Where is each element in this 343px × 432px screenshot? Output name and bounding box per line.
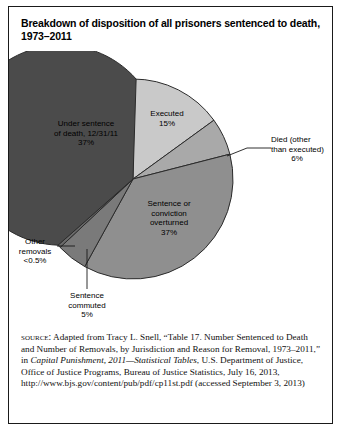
pie-label-died-other-than-executed: Died (other than executed) 6% bbox=[271, 135, 333, 164]
leader-line-died-other-than-executed bbox=[227, 148, 271, 156]
pie-label-sentence-or-conviction-overturned: Sentence or conviction overturned 37% bbox=[122, 199, 216, 237]
page-title: Breakdown of disposition of all prisoner… bbox=[21, 17, 321, 43]
source-italic-1: Capital Punishment, 2011—Statistical Tab… bbox=[30, 355, 196, 365]
pie-label-overturned-value: 37% bbox=[122, 228, 216, 238]
pie-label-died-value: 6% bbox=[271, 154, 323, 164]
pie-label-under-sentence-of-death-name1: Under sentence bbox=[31, 119, 141, 129]
pie-label-other-removals-value: <0.5% bbox=[11, 256, 59, 266]
pie-label-under-sentence-of-death-value: 37% bbox=[31, 138, 141, 148]
pie-chart: Executed 15% Under sentence of death, 12… bbox=[9, 51, 331, 326]
pie-label-died-name1: Died (other bbox=[271, 135, 333, 145]
pie-label-under-sentence-of-death-name2: of death, 12/31/11 bbox=[31, 129, 141, 139]
pie-label-other-removals-name2: removals bbox=[11, 247, 59, 257]
source-kicker: source: bbox=[21, 331, 51, 342]
pie-label-under-sentence-of-death: Under sentence of death, 12/31/11 37% bbox=[31, 119, 141, 148]
pie-label-overturned-name1: Sentence or bbox=[122, 199, 216, 209]
pie-chart-svg bbox=[9, 51, 331, 326]
pie-label-commuted-value: 5% bbox=[51, 310, 123, 320]
pie-label-commuted-name2: commuted bbox=[51, 301, 123, 311]
pie-label-died-name2: than executed) bbox=[271, 145, 333, 155]
pie-label-executed-name: Executed bbox=[127, 109, 207, 119]
source-note: source: Adapted from Tracy L. Snell, “Ta… bbox=[21, 331, 321, 390]
pie-label-other-removals: Other removals <0.5% bbox=[11, 237, 59, 266]
pie-label-other-removals-name1: Other bbox=[11, 237, 59, 247]
figure-panel: Breakdown of disposition of all prisoner… bbox=[8, 6, 333, 424]
pie-label-sentence-commuted: Sentence commuted 5% bbox=[51, 291, 123, 320]
pie-label-overturned-name2: conviction bbox=[122, 209, 216, 219]
pie-label-commuted-name1: Sentence bbox=[51, 291, 123, 301]
pie-label-overturned-name3: overturned bbox=[122, 218, 216, 228]
